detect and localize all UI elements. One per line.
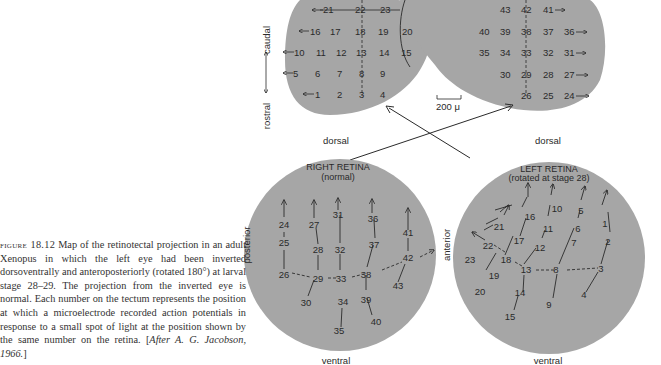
- tectum-point-43: 43: [500, 4, 511, 15]
- caption-label: figure 18.12: [0, 239, 55, 250]
- retina-point-37: 37: [369, 239, 380, 250]
- retina-point-14: 14: [515, 287, 526, 298]
- tectum-point-15: 15: [401, 47, 412, 58]
- tectum-point-27: 27: [564, 69, 575, 80]
- retina-point-23: 23: [465, 254, 476, 265]
- right-retina-subtitle: (normal): [321, 172, 355, 182]
- retina-point-28: 28: [313, 244, 324, 255]
- left-retina-dorsal-label: dorsal: [535, 135, 561, 146]
- retina-point-34: 34: [338, 296, 349, 307]
- retina-point-2: 2: [605, 236, 610, 247]
- tectum-point-42: 42: [521, 4, 532, 15]
- left-retina-ventral-label: ventral: [534, 355, 563, 365]
- right-retina-title: RIGHT RETINA: [306, 162, 369, 172]
- tectum-point-31: 31: [564, 47, 575, 58]
- retina-point-43: 43: [393, 280, 404, 291]
- retina-point-35: 35: [334, 325, 345, 336]
- retina-point-11: 11: [543, 223, 553, 234]
- tectum-point-34: 34: [500, 47, 511, 58]
- retina-point-32: 32: [335, 244, 346, 255]
- tectum-point-30: 30: [500, 69, 511, 80]
- retina-point-13: 13: [521, 264, 532, 275]
- tectum-point-33: 33: [521, 47, 532, 58]
- scale-bar-label: 200 μ: [436, 101, 460, 112]
- tectum-point-22: 22: [355, 4, 366, 15]
- retina-point-6: 6: [575, 223, 580, 234]
- tectum-point-11: 11: [316, 47, 326, 58]
- tectum-point-16: 16: [310, 26, 321, 37]
- retina-point-8: 8: [553, 264, 558, 275]
- retina-point-10: 10: [552, 203, 563, 214]
- caption-close: ]: [23, 348, 26, 359]
- tectum-point-3: 3: [359, 89, 364, 100]
- retina-point-26: 26: [279, 269, 290, 280]
- tectum-point-7: 7: [337, 68, 342, 79]
- retina-point-30: 30: [301, 297, 312, 308]
- tectum-point-5: 5: [293, 68, 298, 79]
- left-retina-circle: [453, 162, 645, 354]
- tectum-point-40: 40: [479, 26, 490, 37]
- retina-point-5: 5: [578, 205, 583, 216]
- retina-point-4: 4: [581, 289, 586, 300]
- tectum-point-4: 4: [380, 89, 385, 100]
- right-retina-ventral-label: ventral: [322, 355, 351, 365]
- tectum-point-6: 6: [315, 68, 320, 79]
- tectum-point-26: 26: [521, 90, 532, 101]
- retina-point-40: 40: [371, 316, 382, 327]
- retina-point-17: 17: [514, 235, 525, 246]
- tectum-point-9: 9: [380, 68, 385, 79]
- retina-point-15: 15: [505, 311, 516, 322]
- projection-line-right: [350, 106, 511, 160]
- axis-label-caudal: caudal: [261, 26, 272, 54]
- tectum-point-14: 14: [379, 47, 390, 58]
- right-retina-dorsal-label: dorsal: [323, 135, 349, 146]
- tectum-point-41: 41: [543, 4, 554, 15]
- tectum-point-2: 2: [337, 89, 342, 100]
- retina-point-27: 27: [309, 219, 320, 230]
- tectum-point-38: 38: [521, 26, 532, 37]
- tectum-point-35: 35: [479, 47, 490, 58]
- left-retina-subtitle: (rotated at stage 28): [508, 173, 589, 183]
- retina-point-22: 22: [483, 240, 494, 251]
- tectum-point-39: 39: [500, 26, 511, 37]
- figure-caption: figure 18.12 Map of the retinotectal pro…: [0, 238, 246, 360]
- retina-point-16: 16: [525, 211, 536, 222]
- tectum-point-17: 17: [330, 26, 341, 37]
- retina-point-19: 19: [489, 270, 500, 281]
- tectum-point-19: 19: [378, 26, 389, 37]
- scale-bar: [437, 95, 461, 99]
- tectum-point-23: 23: [380, 4, 391, 15]
- retina-point-39: 39: [361, 294, 372, 305]
- tectum-point-28: 28: [543, 69, 554, 80]
- tectum-point-24: 24: [564, 90, 575, 101]
- retina-point-36: 36: [368, 213, 379, 224]
- tectum-point-13: 13: [356, 47, 367, 58]
- tectum-point-1: 1: [315, 89, 320, 100]
- tectum-point-12: 12: [336, 47, 347, 58]
- tectum-point-20: 20: [402, 26, 413, 37]
- axis-label-rostral: rostral: [261, 103, 272, 129]
- retina-point-18: 18: [501, 254, 512, 265]
- tectum-point-36: 36: [564, 26, 575, 37]
- tectum-point-32: 32: [543, 47, 554, 58]
- retina-point-3: 3: [598, 263, 603, 274]
- tectum-point-25: 25: [543, 90, 554, 101]
- tectum-point-8: 8: [359, 68, 364, 79]
- tectum-point-18: 18: [355, 26, 366, 37]
- retina-point-33: 33: [336, 273, 347, 284]
- retina-point-41: 41: [403, 227, 414, 238]
- left-retina-anterior-label: anterior: [441, 229, 452, 261]
- tectum-point-29: 29: [521, 69, 532, 80]
- retina-point-12: 12: [535, 242, 546, 253]
- tectum-point-21: 21: [323, 4, 334, 15]
- retina-point-7: 7: [571, 237, 576, 248]
- retina-point-24: 24: [279, 219, 290, 230]
- tectum-point-37: 37: [543, 26, 554, 37]
- retina-point-20: 20: [475, 286, 486, 297]
- retina-point-29: 29: [313, 273, 324, 284]
- retina-point-9: 9: [546, 299, 551, 310]
- retina-point-25: 25: [279, 237, 290, 248]
- retina-point-21: 21: [494, 221, 505, 232]
- caption-text: Map of the retinotectal projection in an…: [0, 239, 246, 345]
- retina-point-42: 42: [403, 252, 414, 263]
